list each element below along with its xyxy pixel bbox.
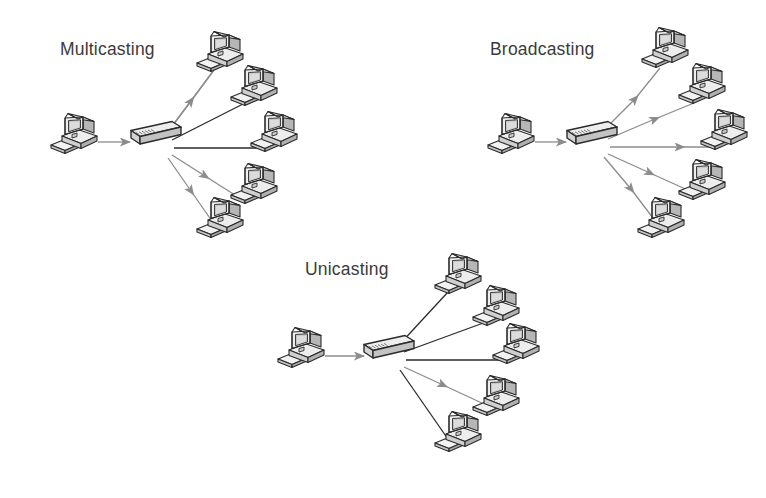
multicasting-source-computer[interactable] <box>51 114 97 154</box>
multicasting-destination-computer-5[interactable] <box>197 198 243 238</box>
multicasting-title: Multicasting <box>60 39 155 59</box>
multicasting-destination-computer-2[interactable] <box>231 66 277 106</box>
unicasting-destination-computer-5[interactable] <box>435 412 481 452</box>
casting-diagram-svg: Multicasting <box>0 0 766 498</box>
unicasting-network-switch[interactable] <box>364 336 414 359</box>
broadcasting-destination-computer-5[interactable] <box>638 198 684 238</box>
diagram-broadcasting: Broadcasting <box>488 28 747 238</box>
unicasting-source-computer[interactable] <box>278 328 324 368</box>
unicasting-destination-computer-4[interactable] <box>473 376 519 416</box>
diagram-unicasting: Unicasting <box>278 254 539 452</box>
link-switch-to-destination-5 <box>400 370 450 442</box>
multicasting-destination-computer-4[interactable] <box>231 164 277 204</box>
link-switch-to-destination-4 <box>404 367 484 404</box>
link-switch-to-destination-4 <box>172 155 238 197</box>
unicasting-destination-computer-2[interactable] <box>473 286 519 326</box>
link-switch-to-destination-2 <box>608 103 694 139</box>
broadcasting-destination-computer-4[interactable] <box>679 160 725 200</box>
broadcasting-destination-computer-2[interactable] <box>679 64 725 104</box>
link-switch-to-destination-5 <box>604 157 656 222</box>
diagram-canvas: Multicasting <box>0 0 766 498</box>
link-switch-to-destination-2 <box>172 104 243 140</box>
multicasting-destination-computer-1[interactable] <box>197 32 243 72</box>
link-switch-to-destination-5 <box>168 158 214 224</box>
multicasting-destination-computer-3[interactable] <box>251 112 297 152</box>
broadcasting-title: Broadcasting <box>490 39 595 59</box>
unicasting-destination-computer-3[interactable] <box>493 324 539 364</box>
broadcasting-destination-computer-3[interactable] <box>701 110 747 150</box>
link-switch-to-destination-1 <box>603 68 660 131</box>
broadcasting-source-computer[interactable] <box>488 114 534 154</box>
link-switch-to-destination-4 <box>608 154 692 192</box>
broadcasting-destination-computer-1[interactable] <box>642 28 688 68</box>
multicasting-network-switch[interactable] <box>131 122 181 145</box>
unicasting-destination-computer-1[interactable] <box>435 254 481 294</box>
unicasting-title: Unicasting <box>305 259 389 279</box>
diagram-multicasting: Multicasting <box>51 32 297 238</box>
broadcasting-network-switch[interactable] <box>567 122 617 145</box>
